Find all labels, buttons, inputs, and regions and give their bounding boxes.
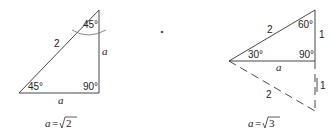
left-equation: a = 2 bbox=[45, 117, 77, 129]
angle-arc bbox=[72, 30, 106, 35]
left-eq-var: a bbox=[45, 117, 51, 129]
left-vertical-leg-label: a bbox=[102, 45, 108, 57]
right-left-angle-label: 30° bbox=[248, 49, 263, 60]
right-horizontal-label: a bbox=[276, 61, 282, 73]
left-eq-radicand: 2 bbox=[66, 117, 72, 129]
right-upper-vertical-label: 1 bbox=[319, 29, 325, 40]
left-right-angle-label: 90° bbox=[83, 81, 98, 92]
right-equation: a = 3 bbox=[248, 117, 280, 129]
left-horizontal-leg-label: a bbox=[58, 94, 64, 106]
right-eq-sign: = bbox=[255, 117, 261, 129]
left-bottom-angle-label: 45° bbox=[28, 81, 43, 92]
right-lower-vertical-label: 1 bbox=[320, 80, 326, 91]
left-top-angle-label: 45° bbox=[83, 19, 98, 30]
right-top-angle-label: 60° bbox=[298, 19, 313, 30]
right-eq-var: a bbox=[248, 117, 254, 129]
diagram-canvas: 45° 2 a 45° 90° a a = 2 60° 2 1 30° 90° … bbox=[0, 0, 332, 139]
right-right-angle-label: 90° bbox=[299, 49, 314, 60]
right-triangle: 60° 2 1 30° 90° a 2 1 bbox=[229, 10, 326, 111]
right-upper-hypotenuse-label: 2 bbox=[267, 24, 273, 35]
left-triangle: 45° 2 a 45° 90° a bbox=[19, 10, 108, 106]
lower-hypotenuse-dashed bbox=[229, 61, 315, 111]
left-hypotenuse-label: 2 bbox=[54, 38, 60, 49]
right-lower-hypotenuse-label: 2 bbox=[266, 89, 272, 100]
stray-dot bbox=[161, 31, 164, 34]
left-eq-sign: = bbox=[52, 117, 58, 129]
right-eq-radicand: 3 bbox=[269, 117, 275, 129]
